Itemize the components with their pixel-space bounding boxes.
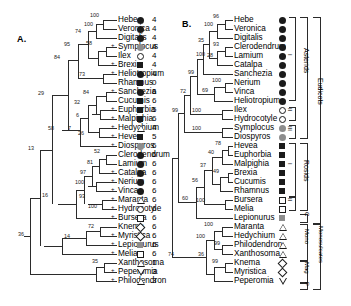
- taxon-label: Hedychium: [234, 232, 275, 240]
- diamond-icon: [278, 258, 288, 268]
- open-square-icon: [279, 197, 286, 204]
- open-circle-icon: [279, 107, 286, 114]
- taxon-label: Melia: [234, 205, 254, 213]
- bracket-label-rosids-roman-i: I: [287, 163, 293, 165]
- bootstrap-value: 99: [212, 259, 218, 264]
- gray-circle-icon: [279, 134, 286, 141]
- taxon-label: Veronica: [234, 25, 266, 33]
- filled-circle-icon: [137, 17, 144, 24]
- bootstrap-value: 69: [202, 88, 208, 93]
- up-triangle-icon: [137, 197, 145, 204]
- filled-square-icon: [279, 161, 285, 167]
- bootstrap-value: 58: [48, 126, 54, 131]
- filled-circle-icon: [279, 89, 286, 96]
- taxon-label: Malpighia: [234, 160, 269, 168]
- bootstrap-value: 93: [79, 194, 85, 199]
- up-triangle-icon: [137, 260, 145, 267]
- taxon-label: Euphorbia: [234, 151, 271, 159]
- taxon-label: Lepionurus: [234, 214, 275, 222]
- taxon-label: Sanchezia: [234, 70, 272, 78]
- bootstrap-value: 29: [38, 91, 44, 96]
- character-code: 1: [152, 259, 156, 267]
- bootstrap-value: 58: [86, 41, 92, 46]
- bootstrap-value: 99: [172, 108, 178, 113]
- filled-circle-icon: [137, 71, 144, 78]
- character-code: 6: [152, 178, 156, 186]
- bootstrap-value: 100: [196, 198, 205, 203]
- taxon-label: Hebe: [118, 16, 138, 24]
- taxon-label: Veronica: [118, 25, 150, 33]
- gray-square-icon: [279, 215, 285, 221]
- bootstrap-value: 78: [215, 141, 221, 146]
- gray-square-icon: [137, 242, 143, 248]
- up-triangle-icon: [279, 233, 287, 240]
- bootstrap-value: 99: [214, 241, 220, 246]
- filled-circle-icon: [279, 71, 286, 78]
- filled-circle-icon: [137, 170, 144, 177]
- taxon-label: Xanthosoma: [234, 250, 280, 258]
- open-circle-icon: [279, 116, 286, 123]
- taxon-label: Philodendron: [234, 241, 282, 249]
- bracket-label-roman-iii: III: [287, 126, 293, 131]
- bootstrap-value: 100: [196, 234, 205, 239]
- filled-circle-icon: [137, 152, 144, 159]
- bootstrap-value: 36: [18, 232, 24, 237]
- character-code: 6: [152, 142, 156, 150]
- bracket-rosids-i: [289, 143, 296, 197]
- taxon-label: Melia: [118, 250, 138, 258]
- bootstrap-value: 40: [208, 150, 214, 155]
- character-code: 6: [152, 232, 156, 240]
- bootstrap-value: 100: [75, 180, 84, 185]
- bootstrap-value: 72: [180, 89, 186, 94]
- bootstrap-value: 74: [168, 252, 174, 257]
- taxon-label: Cucumis: [234, 178, 266, 186]
- filled-square-icon: [137, 98, 143, 104]
- bootstrap-value: 99: [188, 70, 194, 75]
- taxon-label: Malpighia: [118, 115, 153, 123]
- filled-square-icon: [137, 107, 143, 113]
- bracket-label-rosids-roman-ii: II: [287, 198, 293, 201]
- filled-circle-icon: [279, 80, 286, 87]
- character-code: 3: [152, 268, 156, 276]
- bracket-label-c: C: [304, 212, 310, 216]
- taxon-label: Hebe: [234, 16, 254, 24]
- character-code: 6: [152, 187, 156, 195]
- filled-circle-icon: [279, 35, 286, 42]
- bootstrap-value: 6: [76, 113, 79, 118]
- up-triangle-icon: [279, 251, 287, 258]
- taxon-label: Maranta: [234, 223, 264, 231]
- filled-circle-icon: [137, 26, 144, 33]
- open-square-icon: [137, 215, 144, 222]
- taxon-label: Nerium: [234, 79, 260, 87]
- bootstrap-value: 97: [80, 170, 86, 175]
- diamond-icon: [278, 267, 288, 277]
- filled-square-icon: [137, 62, 143, 68]
- bootstrap-value: 96: [213, 14, 219, 19]
- open-square-icon: [279, 206, 286, 213]
- bootstrap-value: 49: [213, 169, 219, 174]
- taxon-label: Catalpa: [234, 61, 262, 69]
- up-triangle-icon: [137, 125, 145, 132]
- down-triangle-icon: [279, 278, 287, 285]
- bootstrap-value: 95: [64, 42, 70, 47]
- bootstrap-value: 32: [74, 100, 80, 105]
- bootstrap-value: 84: [83, 90, 89, 95]
- bracket-label-mag: Mag: [304, 262, 310, 274]
- taxon-label: Rhamnus: [234, 187, 269, 195]
- bootstrap-value: 100: [196, 52, 205, 57]
- filled-circle-icon: [279, 62, 286, 69]
- filled-square-icon: [137, 134, 143, 140]
- character-code: 4: [152, 70, 156, 78]
- open-square-icon: [137, 251, 144, 258]
- down-triangle-icon: [137, 269, 145, 276]
- filled-circle-icon: [279, 98, 286, 105]
- taxon-label: Ilex: [234, 106, 247, 114]
- taxon-label: Heliotropium: [234, 97, 280, 105]
- filled-circle-icon: [137, 161, 144, 168]
- bootstrap-value: 52: [94, 149, 100, 154]
- filled-square-icon: [279, 188, 285, 194]
- taxon-label: Hevea: [234, 142, 258, 150]
- phylogenetic-figure: A.: [0, 0, 351, 306]
- open-circle-icon: [137, 206, 144, 213]
- character-code: 6: [152, 223, 156, 231]
